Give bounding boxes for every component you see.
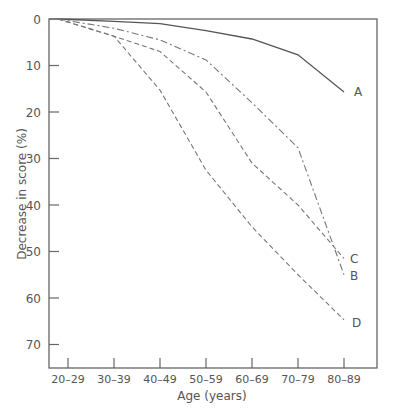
series-line-a [58, 19, 344, 92]
series-label-d: D [352, 316, 361, 330]
x-tick-label: 80–89 [327, 373, 361, 386]
y-tick-label: 70 [26, 338, 41, 352]
x-tick-label: 20–29 [51, 373, 85, 386]
y-tick-label: 20 [26, 106, 41, 120]
series-line-c [58, 19, 344, 258]
x-axis: 20–2930–3940–4950–5960–6970–7980–89 [51, 358, 361, 386]
x-tick-label: 30–39 [97, 373, 131, 386]
plot-frame [49, 19, 377, 368]
y-axis: 010203040506070 [26, 13, 59, 353]
x-tick-label: 70–79 [281, 373, 315, 386]
series-label-a: A [354, 85, 363, 99]
series-label-b: B [350, 269, 358, 283]
x-axis-label: Age (years) [177, 389, 246, 403]
series-line-d [58, 19, 344, 320]
x-tick-label: 40–49 [143, 373, 177, 386]
x-tick-label: 60–69 [235, 373, 269, 386]
y-tick-label: 0 [33, 13, 41, 27]
x-tick-label: 50–59 [189, 373, 223, 386]
series-lines: ABCD [58, 19, 363, 330]
y-axis-label: Decrease in score (%) [15, 128, 29, 260]
series-label-c: C [350, 252, 358, 266]
y-tick-label: 60 [26, 292, 41, 306]
y-tick-label: 10 [26, 59, 41, 73]
line-chart: 010203040506070 20–2930–3940–4950–5960–6… [0, 0, 393, 415]
